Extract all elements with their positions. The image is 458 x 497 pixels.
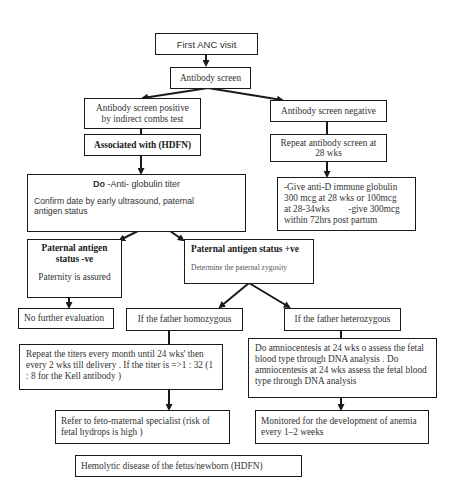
antiglobulin-titer-title: Do -Anti- globulin titer	[34, 179, 239, 190]
titer-title-label: -Anti- globulin titer	[105, 179, 180, 189]
anti-d-box: -Give anti-D immune globulin 300 mcg at …	[277, 177, 416, 231]
monitored-anemia-text: Monitored for the development of anemia …	[261, 416, 423, 438]
father-heterozygous-label: If the father heterozygous	[290, 314, 395, 325]
father-homozygous-label: If the father homozygous	[132, 314, 237, 325]
father-homozygous-box: If the father homozygous	[126, 308, 243, 331]
paternal-positive-box: Paternal antigen status +ve Determine th…	[184, 239, 314, 284]
refer-specialist-text: Refer to feto-maternal specialist (risk …	[61, 416, 224, 438]
first-anc-visit-box: First ANC visit	[155, 33, 258, 55]
antibody-negative-label: Antibody screen negative	[276, 106, 381, 117]
refer-specialist-box: Refer to feto-maternal specialist (risk …	[55, 410, 230, 444]
associated-hdfn-box: Associated with (HDFN)	[84, 134, 201, 156]
antibody-screen-box: Antibody screen	[170, 67, 251, 89]
antibody-screen-label: Antibody screen	[176, 73, 245, 84]
amniocentesis-box: Do amniocentesis at 24 wks o assess the …	[248, 338, 437, 398]
repeat-screen-line2: 28 wks	[276, 148, 381, 158]
antibody-positive-line2: by indirect combs test	[90, 114, 195, 125]
antibody-negative-box: Antibody screen negative	[270, 100, 387, 122]
paternal-negative-box: Paternal antigen status -ve Paternity is…	[27, 239, 122, 298]
associated-hdfn-label: Associated with (HDFN)	[90, 140, 195, 151]
first-anc-visit-label: First ANC visit	[161, 39, 252, 50]
anti-d-line1: -Give anti-D immune globulin	[284, 182, 409, 193]
paternal-negative-body: Paternity is assured	[33, 272, 116, 283]
anti-d-line3: at 28-34wks -give 300mcg	[284, 204, 409, 215]
anti-d-line4: within 72hrs post partum	[284, 215, 409, 226]
repeat-screen-line1: Repeat antibody screen at	[276, 138, 381, 148]
father-heterozygous-box: If the father heterozygous	[284, 308, 401, 331]
titer-do-label: Do	[93, 179, 105, 189]
hdfn-caption-box: Hemolytic disease of the fetus/newborn (…	[75, 455, 302, 477]
paternal-positive-body: Determine the paternal zygosity	[191, 262, 307, 273]
paternal-negative-title1: Paternal antigen	[33, 243, 116, 254]
paternal-positive-title: Paternal antigen status +ve	[191, 244, 307, 255]
antiglobulin-titer-box: Do -Anti- globulin titer Confirm date by…	[27, 174, 246, 232]
hdfn-caption-text: Hemolytic disease of the fetus/newborn (…	[81, 461, 296, 472]
no-further-evaluation-label: No further evaluation	[24, 313, 108, 324]
repeat-titers-box: Repeat the titers every month until 24 w…	[19, 344, 223, 390]
flowchart-canvas: First ANC visit Antibody screen Antibody…	[0, 0, 458, 497]
no-further-evaluation-box: No further evaluation	[18, 308, 114, 329]
repeat-titers-text: Repeat the titers every month until 24 w…	[26, 349, 213, 381]
amniocentesis-text: Do amniocentesis at 24 wks o assess the …	[255, 343, 427, 386]
repeat-screen-box: Repeat antibody screen at 28 wks	[270, 134, 387, 162]
monitored-anemia-box: Monitored for the development of anemia …	[255, 410, 429, 444]
antibody-positive-line1: Antibody screen positive	[90, 103, 195, 114]
paternal-negative-title2: status -ve	[33, 254, 116, 265]
antiglobulin-titer-body: Confirm date by early ultrasound, patern…	[34, 196, 239, 217]
anti-d-line2: 300 mcg at 28 wks or 100mcg	[284, 193, 409, 204]
antibody-positive-box: Antibody screen positive by indirect com…	[84, 98, 201, 129]
